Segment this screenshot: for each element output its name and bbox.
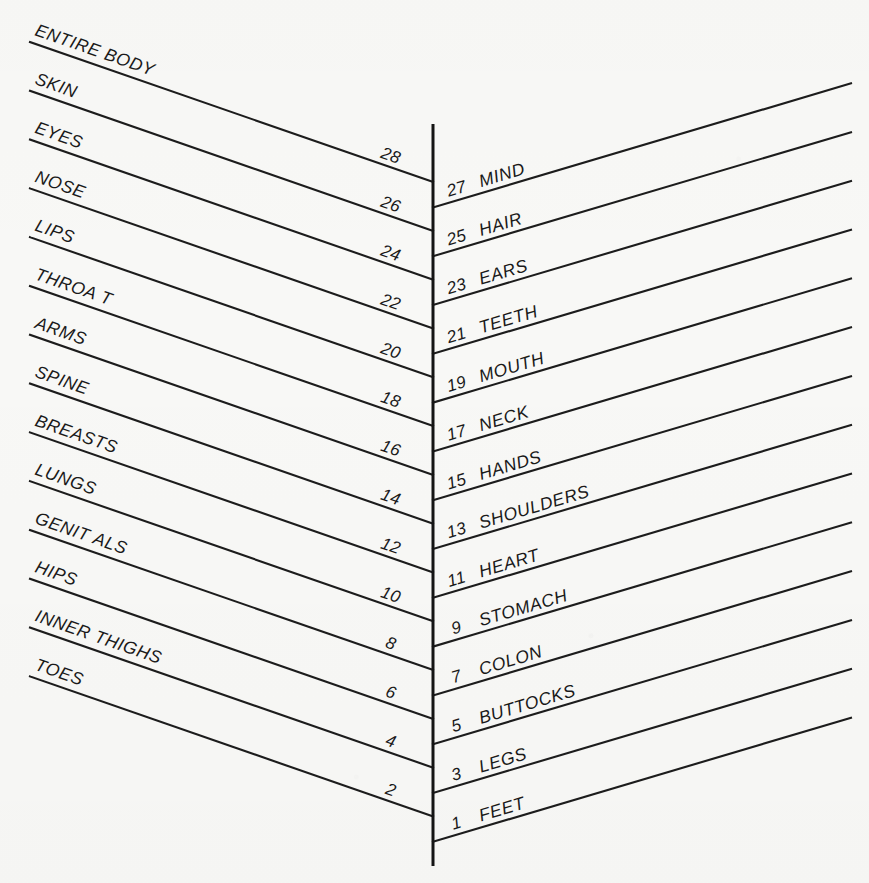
right-rule-number-5: 5 [449,715,464,736]
right-rule-label-19: MOUTH [476,348,546,386]
right-rule-line-13 [433,425,851,549]
left-rule-label-12: BREASTS [33,410,121,457]
right-rule-number-3: 3 [449,764,464,785]
left-rule-number-8: 8 [383,633,399,654]
right-rule-line-1 [433,718,851,842]
left-rule-label-26: SKIN [33,69,80,102]
right-rules-group: 27MIND25HAIR23EARS21TEETH19MOUTH17NECK15… [433,83,851,841]
right-rule-number-11: 11 [445,567,468,590]
left-rule-label-18: THROA T [33,264,116,309]
right-rule-label-5: BUTTOCKS [476,680,577,728]
right-rule-line-19 [433,279,851,403]
right-rule-line-17 [433,327,851,451]
right-rule-line-15 [433,376,851,500]
right-rule-line-23 [433,181,851,305]
right-rule-number-9: 9 [449,617,464,638]
right-rule-line-11 [433,474,851,598]
left-rule-label-22: NOSE [33,166,89,202]
left-rule-label-6: HIPS [33,557,80,590]
body-parts-chevron-diagram: 28ENTIRE BODY26SKIN24EYES22NOSE20LIPS18T… [0,0,869,883]
left-rule-number-2: 2 [382,779,399,801]
right-rule-number-7: 7 [449,666,464,687]
left-rule-label-2: TOES [33,654,87,689]
right-rule-label-25: HAIR [476,208,524,240]
left-rule-label-20: LIPS [33,215,78,247]
right-rule-line-5 [433,620,851,744]
left-rule-number-6: 6 [383,682,399,703]
right-rule-line-7 [433,571,851,695]
left-rule-label-14: SPINE [33,361,92,398]
right-rule-label-9: STOMACH [476,585,569,630]
left-rule-label-24: EYES [33,117,86,152]
left-rule-number-4: 4 [383,731,398,752]
right-rule-line-25 [433,132,851,256]
left-rule-label-16: ARMS [32,312,90,349]
chart-page: 28ENTIRE BODY26SKIN24EYES22NOSE20LIPS18T… [0,0,869,883]
left-rules-group: 28ENTIRE BODY26SKIN24EYES22NOSE20LIPS18T… [30,20,433,817]
right-rule-number-1: 1 [449,813,464,834]
right-rule-line-27 [433,83,851,207]
right-rule-line-9 [433,523,851,647]
left-rule-label-8: GENIT ALS [33,508,130,558]
right-rule-line-3 [433,669,851,793]
right-rule-line-21 [433,230,851,354]
